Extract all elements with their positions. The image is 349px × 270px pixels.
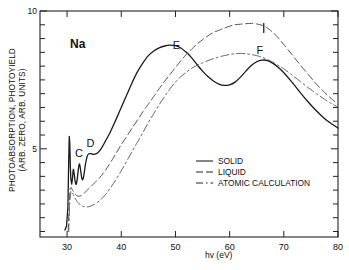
peak-label-f: F: [257, 44, 264, 56]
data-series-group: [65, 23, 338, 231]
chart-plot-area: 304050607080 510 CDEF hv (eV) Na SOLIDLI…: [0, 0, 349, 270]
peak-annotation-labels: CDEF: [75, 23, 264, 159]
x-axis-ticks: [67, 11, 338, 237]
sample-annotation: Na: [70, 37, 86, 51]
x-axis-tick-labels: 304050607080: [62, 242, 343, 252]
legend-label-atomic-calculation: ATOMIC CALCULATION: [218, 178, 310, 188]
series-line-liquid: [68, 23, 338, 231]
x-tick-label-50: 50: [170, 242, 180, 252]
y-axis-label-line1: PHOTOABSORPTION, PHOTOYIELD: [8, 48, 18, 192]
peak-label-d: D: [86, 137, 94, 149]
y-axis-label: PHOTOABSORPTION, PHOTOYIELD (ARB. ZERO, …: [0, 0, 36, 240]
chart-legend: SOLIDLIQUIDATOMIC CALCULATION: [196, 156, 310, 188]
series-line-atomic-calculation: [69, 53, 338, 231]
x-tick-label-70: 70: [279, 242, 289, 252]
x-tick-label-40: 40: [116, 242, 126, 252]
legend-label-liquid: LIQUID: [218, 167, 246, 177]
series-line-solid: [65, 45, 338, 230]
x-tick-label-30: 30: [62, 242, 72, 252]
x-tick-label-80: 80: [333, 242, 343, 252]
x-axis-label: hv (eV): [205, 250, 233, 260]
peak-label-e: E: [173, 39, 180, 51]
figure-container: PHOTOABSORPTION, PHOTOYIELD (ARB. ZERO, …: [0, 0, 349, 270]
y-axis-label-line2: (ARB. ZERO, ARB. UNITS): [18, 48, 28, 192]
legend-label-solid: SOLID: [218, 156, 243, 166]
peak-label-c: C: [75, 147, 83, 159]
